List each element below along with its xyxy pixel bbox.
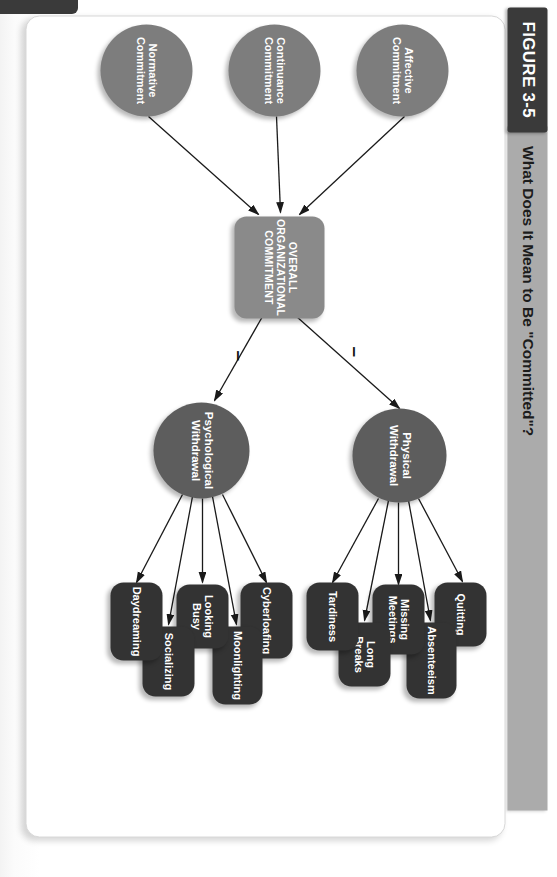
node-label: Moonlighting	[231, 630, 243, 699]
node-label: ContinuanceCommitment	[262, 36, 287, 103]
node-overall-organizational-commitment[interactable]: OVERALLORGANIZATIONALCOMMITMENT	[234, 216, 324, 318]
node-label: AffectiveCommitment	[390, 36, 415, 103]
node-physical-withdrawal[interactable]: PhysicalWithdrawal	[352, 408, 446, 502]
edge-normative-to-overall	[148, 116, 258, 214]
edge-physical-to-quitting	[418, 498, 462, 581]
node-continuance-commitment[interactable]: ContinuanceCommitment	[228, 24, 320, 116]
node-label: PsychologicalWithdrawal	[188, 411, 214, 488]
edge-physical-to-tardiness	[332, 498, 378, 582]
figure-title: What Does It Mean to Be "Committed"?	[507, 126, 547, 810]
edge-overall-to-physical	[296, 316, 399, 408]
node-affective-commitment[interactable]: AffectiveCommitment	[356, 24, 448, 116]
node-normative-commitment[interactable]: NormativeCommitment	[100, 24, 192, 116]
edge-continuance-to-overall	[276, 116, 280, 212]
figure-card: – – AffectiveCommitment ContinuanceCommi…	[25, 15, 505, 837]
node-label: LookingBusy	[190, 595, 215, 638]
edge-sign-physical: –	[345, 346, 364, 357]
node-label: Socializing	[162, 632, 174, 689]
node-label: NormativeCommitment	[134, 36, 159, 103]
node-label: PhysicalWithdrawal	[386, 424, 412, 485]
node-label: Quitting	[454, 593, 466, 635]
edge-psychological-to-daydreaming	[136, 494, 182, 582]
figure-rotated-container: FIGURE 3-5 What Does It Mean to Be "Comm…	[6, 11, 551, 866]
node-label: OVERALLORGANIZATIONALCOMMITMENT	[261, 218, 296, 315]
figure-header: FIGURE 3-5 What Does It Mean to Be "Comm…	[507, 7, 547, 810]
node-label: Absenteeism	[425, 626, 437, 694]
node-daydreaming[interactable]: Daydreaming	[110, 582, 162, 660]
edge-sign-psychological: –	[229, 350, 248, 361]
scanned-page: FIGURE 3-5 What Does It Mean to Be "Comm…	[0, 0, 557, 877]
node-label: Daydreaming	[130, 586, 142, 656]
node-tardiness[interactable]: Tardiness	[306, 582, 358, 650]
figure-number-tag: FIGURE 3-5	[507, 7, 547, 132]
node-psychological-withdrawal[interactable]: PsychologicalWithdrawal	[153, 402, 249, 498]
edge-psychological-to-cyberloafing	[222, 494, 266, 582]
node-label: Tardiness	[326, 590, 338, 641]
edge-affective-to-overall	[299, 116, 404, 214]
